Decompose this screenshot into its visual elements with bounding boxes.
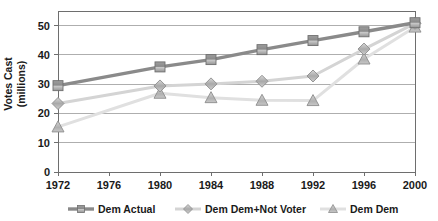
data-point-marker [52,98,64,110]
data-point-marker [154,80,166,92]
legend-label: Dem Actual [98,203,155,215]
x-axis-tick-label: 1996 [352,179,376,191]
legend-item[interactable]: Dem Dem+Not Voter [175,203,306,215]
y-axis-title: Votes Cast (millions) [2,57,27,111]
y-axis-tick-label: 30 [38,78,50,90]
data-point-marker [205,78,217,90]
x-axis-tick-label: 1980 [148,179,172,191]
x-axis-tick-label: 1976 [97,179,121,191]
data-point-marker [53,81,63,91]
data-point-marker [257,45,267,55]
chart-figure: 01020304050 1972197619801984198819921996… [0,0,438,221]
data-point-marker [307,70,319,82]
y-axis-tick-labels: 01020304050 [38,20,50,178]
y-axis-title-line1: Votes Cast [2,57,14,111]
data-point-marker [155,62,165,72]
data-point-marker [359,27,369,37]
x-axis-tick-label: 1992 [301,179,325,191]
chart-canvas: 01020304050 1972197619801984198819921996… [0,0,438,221]
data-point-marker [256,75,268,87]
x-axis-tick-labels: 19721976198019841988199219962000 [46,179,427,191]
chart-legend: Dem ActualDem Dem+Not VoterDem Dem [68,203,398,215]
x-axis-tick-label: 1988 [250,179,274,191]
data-point-marker [410,18,420,28]
series-lines [58,23,415,127]
legend-label: Dem Dem [350,203,398,215]
diamond-marker-icon [184,205,193,214]
y-axis-tick-label: 0 [44,166,50,178]
data-point-marker [358,43,370,55]
x-axis-tick-label: 2000 [403,179,427,191]
data-point-marker [206,55,216,65]
legend-item[interactable]: Dem Dem [320,203,398,215]
y-axis-title-line2: (millions) [15,61,27,108]
x-axis-tick-label: 1972 [46,179,70,191]
y-axis-tick-label: 20 [38,107,50,119]
y-axis-tick-label: 50 [38,20,50,32]
data-point-marker [308,36,318,46]
y-axis-tick-label: 10 [38,137,50,149]
x-axis-ticks [58,172,415,176]
x-axis-tick-label: 1984 [199,179,224,191]
square-marker-icon [78,206,85,213]
legend-item[interactable]: Dem Actual [68,203,155,215]
legend-label: Dem Dem+Not Voter [205,203,306,215]
y-axis-tick-label: 40 [38,49,50,61]
series-markers [52,17,421,132]
